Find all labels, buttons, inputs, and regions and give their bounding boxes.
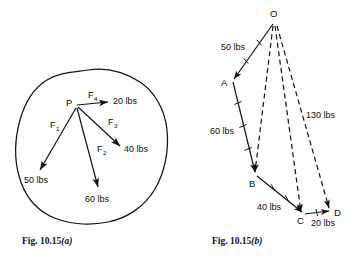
figure-page: P F 4 20 lbs F 3 40 lbs F 2 60 lbs F 1 5… (0, 0, 354, 260)
vertex-label-A: A (221, 77, 228, 88)
tick-marks-AB (234, 102, 251, 151)
figure-a-canvas: P F 4 20 lbs F 3 40 lbs F 2 60 lbs F 1 5… (0, 0, 177, 232)
segment-magnitude-AB: 60 lbs (210, 126, 235, 136)
vertex-label-C: C (297, 215, 304, 226)
caption-figure-a: Fig. 10.15(a) (22, 236, 72, 246)
caption-figure-b: Fig. 10.15(b) (212, 236, 262, 246)
vertex-label-B: B (249, 178, 255, 189)
caption-a-prefix: Fig. (22, 236, 40, 246)
force-magnitude-F3: 40 lbs (124, 144, 149, 154)
segment-magnitude-OA: 50 lbs (221, 42, 246, 52)
force-subscript-F4: 4 (94, 95, 98, 102)
caption-b-letter: (b) (251, 236, 262, 246)
force-vector-F4 (77, 102, 108, 105)
caption-b-prefix: Fig. (212, 236, 230, 246)
segment-magnitude-BC: 40 lbs (257, 202, 282, 212)
force-subscript-F2: 2 (103, 149, 107, 156)
force-vector-F1 (40, 108, 76, 170)
figure-b-canvas: O A B C D 50 lbs 60 lbs 40 lbs 20 lbs 13… (177, 0, 354, 232)
segment-magnitude-OD: 130 lbs (306, 110, 336, 120)
caption-a-number: 10.15 (40, 236, 61, 246)
vertex-label-O: O (270, 8, 277, 19)
resultant-line-OC (275, 26, 301, 212)
force-vector-F2 (77, 108, 98, 187)
resultant-line-OB (255, 26, 273, 172)
caption-a-letter: (a) (61, 236, 72, 246)
force-subscript-F1: 1 (56, 125, 60, 132)
point-label-P: P (66, 97, 72, 108)
force-magnitude-F4: 20 lbs (113, 96, 138, 106)
force-magnitude-F1: 50 lbs (24, 175, 49, 185)
force-magnitude-F2: 60 lbs (85, 194, 110, 204)
caption-b-number: 10.15 (230, 236, 251, 246)
force-segment-AB (233, 82, 255, 172)
force-subscript-F3: 3 (114, 122, 118, 129)
vertex-label-D: D (334, 207, 341, 218)
segment-magnitude-CD: 20 lbs (311, 218, 336, 228)
